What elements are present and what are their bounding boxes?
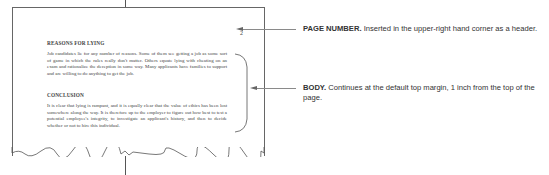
- section-heading: CONCLUSION: [47, 92, 227, 98]
- document-page: 2: [12, 7, 265, 156]
- section-body: Job candidates lie for any number of rea…: [47, 51, 227, 77]
- callout-body: BODY. Continues at the default top margi…: [303, 83, 543, 104]
- section-reasons: REASONS FOR LYING Job candidates lie for…: [47, 40, 227, 77]
- section-conclusion: CONCLUSION It is clear that lying is ram…: [47, 92, 227, 129]
- callout-page-number: PAGE NUMBER. Inserted in the upper-right…: [303, 24, 543, 34]
- arrow-head-icon: [236, 27, 243, 31]
- callout-title: BODY.: [303, 83, 326, 92]
- body-bracket-icon: [234, 53, 250, 133]
- callout-text: Continues at the default top margin, 1 i…: [303, 83, 535, 102]
- callout-title: PAGE NUMBER.: [303, 24, 362, 33]
- torn-edge-icon: [11, 147, 265, 157]
- page-number-arrow: [240, 29, 296, 30]
- body-arrow: [254, 88, 296, 89]
- callout-text: Inserted in the upper-right hand corner …: [362, 24, 538, 33]
- arrow-head-icon: [250, 86, 257, 90]
- section-body: It is clear that lying is rampant, and i…: [47, 103, 227, 129]
- section-heading: REASONS FOR LYING: [47, 40, 227, 46]
